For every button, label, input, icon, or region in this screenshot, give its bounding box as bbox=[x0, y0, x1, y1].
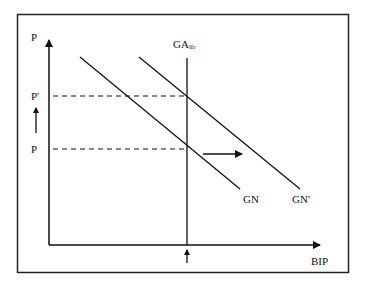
diagram-frame bbox=[18, 15, 349, 273]
p-prime-label: P' bbox=[31, 90, 39, 102]
gn-prime-label: GN' bbox=[292, 193, 310, 205]
diagram-canvas: P P' P GAlfr GN GN' BIP bbox=[0, 0, 365, 284]
x-axis-label: BIP bbox=[311, 255, 328, 267]
p-label: P bbox=[31, 143, 37, 155]
gn-label: GN bbox=[243, 193, 259, 205]
gn-prime-curve bbox=[139, 57, 300, 189]
y-axis-label: P bbox=[31, 31, 37, 43]
gn-curve bbox=[80, 57, 240, 189]
ga-lfr-label: GAlfr bbox=[173, 38, 196, 51]
